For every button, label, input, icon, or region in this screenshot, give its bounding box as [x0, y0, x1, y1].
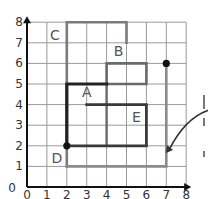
y-tick-label: 1	[15, 159, 23, 173]
region-label-b: B	[114, 43, 124, 59]
y-axis-arrow-icon	[23, 16, 31, 23]
region-label-e: E	[132, 109, 141, 125]
cutoff-text-fragment	[203, 118, 205, 126]
coordinate-grid-diagram: 012345678123456780CABED	[0, 0, 208, 199]
y-tick-label: 6	[15, 56, 23, 70]
x-tick-label: 1	[43, 188, 51, 199]
y-tick-label: 8	[15, 15, 23, 29]
start-dot	[63, 142, 70, 149]
origin-label: 0	[8, 181, 16, 195]
grey-route-d	[67, 63, 167, 166]
x-tick-label: 6	[143, 188, 151, 199]
y-tick-label: 3	[15, 118, 23, 132]
cutoff-text-fragment	[203, 151, 205, 157]
cutoff-text-fragment	[203, 95, 205, 109]
x-tick-label: 3	[83, 188, 91, 199]
region-label-c: C	[50, 27, 60, 43]
y-tick-label: 2	[15, 139, 23, 153]
y-tick-label: 7	[15, 36, 23, 50]
x-tick-label: 5	[123, 188, 131, 199]
region-label-a: A	[82, 84, 92, 100]
x-tick-label: 0	[23, 188, 31, 199]
x-tick-label: 2	[63, 188, 71, 199]
x-tick-label: 7	[162, 188, 170, 199]
y-tick-label: 4	[15, 98, 23, 112]
end-dot	[163, 60, 170, 67]
pointer-arrow	[169, 110, 208, 150]
y-tick-label: 5	[15, 77, 23, 91]
region-label-d: D	[51, 150, 62, 166]
grid-plot: 012345678123456780CABED	[0, 0, 208, 199]
x-tick-label: 4	[103, 188, 111, 199]
x-tick-label: 8	[182, 188, 190, 199]
